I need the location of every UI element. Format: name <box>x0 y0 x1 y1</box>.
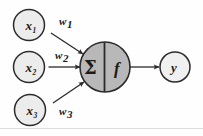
weight-label-2-text: w <box>55 49 63 61</box>
weight-label-3-subscript: 3 <box>66 108 73 120</box>
weight-label-2: w 2 <box>55 49 69 64</box>
weight-label-2-subscript: 2 <box>62 52 69 64</box>
input-node-2[interactable]: x 2 <box>14 52 45 83</box>
neuron-body-node[interactable]: Σ f <box>80 42 130 92</box>
input-node-3-subscript: 3 <box>33 111 38 120</box>
diagram-canvas: x 1 x 2 x 3 w 1 w 2 w 3 <box>0 0 203 136</box>
weight-label-3-text: w <box>59 105 67 117</box>
weight-label-1: w 1 <box>59 15 73 30</box>
weight-label-1-text: w <box>59 15 67 27</box>
connection-line-3 <box>53 82 84 103</box>
input-node-3[interactable]: x 3 <box>15 95 46 126</box>
summation-symbol: Σ <box>84 57 97 78</box>
input-node-1-subscript: 1 <box>33 26 37 35</box>
output-node-label: y <box>169 60 177 75</box>
output-node[interactable]: y <box>160 52 190 82</box>
neuron-diagram: x 1 x 2 x 3 w 1 w 2 w 3 <box>0 0 203 136</box>
input-node-1-label: x <box>25 18 33 33</box>
weight-label-1-subscript: 1 <box>67 18 73 30</box>
input-node-2-label: x <box>25 60 33 75</box>
weight-label-3: w 3 <box>59 105 73 120</box>
input-node-3-label: x <box>26 103 34 118</box>
input-node-2-subscript: 2 <box>32 68 37 77</box>
input-node-1[interactable]: x 1 <box>14 10 45 41</box>
